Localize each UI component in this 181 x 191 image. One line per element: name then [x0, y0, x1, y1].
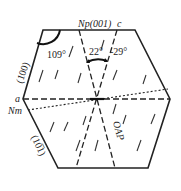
label-a-axis: a [15, 93, 20, 104]
label-oap: OAP [111, 120, 127, 142]
label-face-100: (100) [14, 61, 33, 85]
label-extinction-22: 22° [89, 46, 103, 57]
label-face-10-1: (10̅1) [28, 133, 48, 158]
label-corner-angle: 109° [47, 49, 66, 60]
label-extinction-minus29: -29° [110, 46, 127, 57]
label-nm: Nm [7, 105, 22, 116]
extinction-angle-arc [87, 59, 107, 62]
label-c-axis: c [117, 18, 122, 29]
crystal-section-diagram: Np(001) c 109° 22° -29° a Nm (100) (10̅1… [0, 0, 181, 191]
label-np-001: Np(001) [77, 18, 112, 30]
